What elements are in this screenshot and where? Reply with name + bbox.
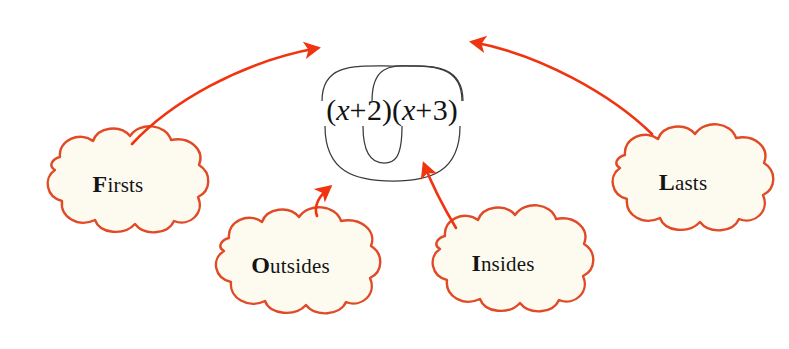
lasts-rest: asts [675,171,707,195]
expression: (x+2)(x+3) [292,95,492,125]
close-paren-left: ) [382,93,392,126]
outsides-capital: O [251,252,270,278]
constant-left: 2 [367,93,382,126]
cloud-label-outsides: Outsides [203,253,378,277]
close-paren-right: ) [448,93,458,126]
lasts-arc [325,126,460,181]
constant-right: 3 [433,93,448,126]
variable-right: x [402,93,415,126]
outsides-rest: utsides [270,254,330,278]
open-paren-left: ( [326,93,336,126]
operator-left: + [350,93,367,126]
foil-diagram: (x+2)(x+3) Firsts Outsides Insides Lasts [0,0,789,349]
insides-arc [363,126,402,163]
insides-rest: nsides [481,252,535,276]
open-paren-right: ( [392,93,402,126]
lasts-arrow[interactable] [472,42,652,134]
cloud-label-lasts: Lasts [598,170,768,194]
cloud-label-insides: Insides [418,251,588,275]
insides-capital: I [471,250,481,276]
firsts-capital: F [93,171,108,197]
variable-left: x [336,93,349,126]
arrow-group [132,42,652,228]
operator-right: + [415,93,432,126]
insides-arrow[interactable] [424,164,456,228]
firsts-rest: irsts [107,173,143,197]
cloud-label-firsts: Firsts [33,172,203,196]
lasts-capital: L [659,169,675,195]
